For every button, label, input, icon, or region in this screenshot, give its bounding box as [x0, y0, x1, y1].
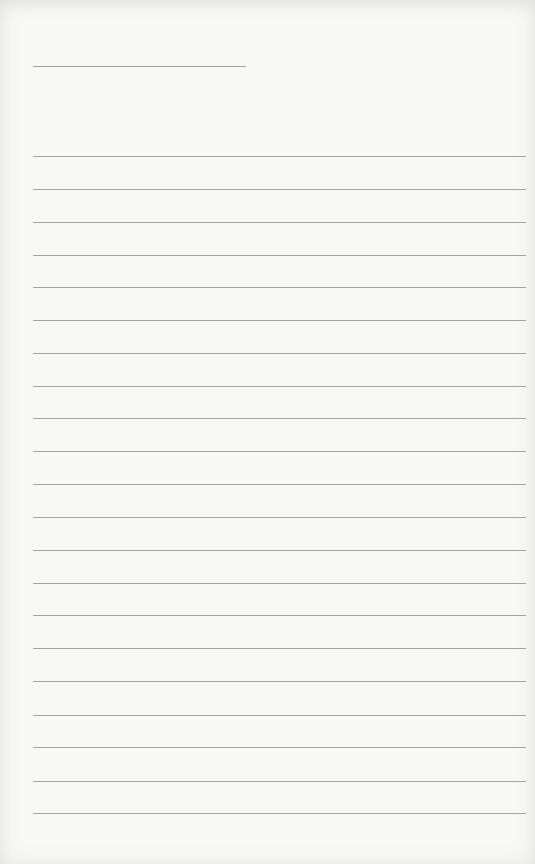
ruled-line	[33, 517, 526, 518]
ruled-line	[33, 320, 526, 321]
ruled-line	[33, 583, 526, 584]
ruled-line	[33, 715, 526, 716]
ruled-line	[33, 386, 526, 387]
ruled-line	[33, 648, 526, 649]
lined-paper-page	[0, 0, 535, 864]
ruled-line	[33, 255, 526, 256]
ruled-line	[33, 550, 526, 551]
ruled-line	[33, 156, 526, 157]
ruled-line	[33, 189, 526, 190]
ruled-line	[33, 222, 526, 223]
ruled-line	[33, 813, 526, 814]
header-title-line	[33, 66, 246, 67]
ruled-line	[33, 287, 526, 288]
ruled-line	[33, 484, 526, 485]
ruled-line	[33, 781, 526, 782]
ruled-line	[33, 747, 526, 748]
ruled-line	[33, 615, 526, 616]
ruled-line	[33, 418, 526, 419]
ruled-line	[33, 681, 526, 682]
ruled-line	[33, 451, 526, 452]
ruled-line	[33, 353, 526, 354]
